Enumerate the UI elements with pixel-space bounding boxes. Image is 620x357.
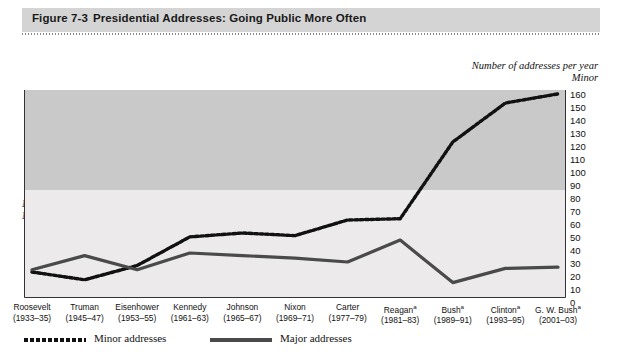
chart-lines (24, 90, 566, 298)
right-axis-tick: 80 (570, 194, 581, 204)
figure-container: Figure 7-3Presidential Addresses: Going … (0, 0, 620, 357)
x-axis-labels: Roosevelt(1933–35)Truman(1945–47)Eisenho… (0, 302, 620, 328)
right-axis-tick: 60 (570, 220, 581, 230)
figure-title: Figure 7-3Presidential Addresses: Going … (32, 12, 366, 24)
title-divider (22, 33, 600, 35)
right-axis-tick: 140 (570, 116, 586, 126)
legend-swatch-major-icon (210, 338, 272, 342)
x-axis-label: G. W. Busha(2001–03) (522, 302, 594, 326)
footnote-marker: a (461, 303, 464, 310)
right-axis-caption-line1: Number of addresses per year (472, 60, 598, 72)
right-axis-tick: 50 (570, 233, 581, 243)
x-axis-label-name: G. W. Busha (522, 302, 594, 315)
footnote-marker: a (517, 303, 520, 310)
figure-title-text: Presidential Addresses: Going Public Mor… (93, 12, 366, 24)
left-axis-ticks: 12345678 (10, 222, 24, 304)
figure-number: Figure 7-3 (32, 12, 88, 24)
right-axis-tick: 40 (570, 246, 581, 256)
plot-area (24, 90, 566, 298)
right-axis-tick: 130 (570, 129, 586, 139)
right-axis-tick: 110 (570, 155, 585, 165)
right-axis-tick: 150 (570, 103, 586, 113)
right-axis-caption-line2: Minor (472, 72, 598, 84)
right-axis-tick: 70 (570, 207, 581, 217)
footnote-marker: a (577, 303, 580, 310)
x-axis-label-years: (2001–03) (522, 315, 594, 326)
right-axis-tick: 30 (570, 259, 581, 269)
series-line-major-addresses (32, 240, 558, 283)
right-axis-tick: 90 (570, 181, 581, 191)
right-axis-tick: 20 (570, 272, 581, 282)
legend-label-major: Major addresses (280, 332, 352, 344)
right-axis-tick: 160 (570, 90, 586, 100)
right-axis-tick: 10 (570, 285, 581, 295)
right-axis-tick: 100 (570, 168, 586, 178)
legend-label-minor: Minor addresses (94, 332, 166, 344)
right-axis-tick: 120 (570, 142, 586, 152)
right-axis-ticks: 0102030405060708090100110120130140150160 (570, 86, 616, 302)
legend-swatch-minor-icon (24, 338, 86, 342)
right-axis-caption: Number of addresses per year Minor (472, 60, 598, 84)
series-line-minor-addresses (32, 94, 558, 280)
